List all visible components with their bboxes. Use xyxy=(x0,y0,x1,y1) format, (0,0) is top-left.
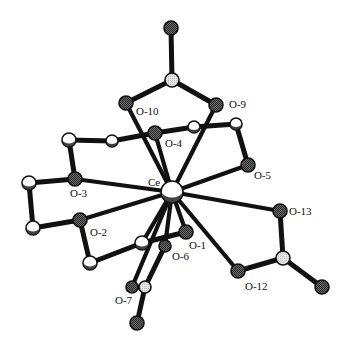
atom-o-2 xyxy=(73,213,87,227)
label-o-1: O-1 xyxy=(189,239,206,251)
atoms xyxy=(22,21,329,330)
atom-c7 xyxy=(83,256,97,270)
atom-o-5 xyxy=(241,158,255,172)
atom-o-4 xyxy=(148,126,162,140)
atom-c3 xyxy=(230,118,242,130)
atom-c1 xyxy=(106,135,118,147)
atom-n3 xyxy=(139,281,151,293)
label-o-3: O-3 xyxy=(70,187,88,199)
atom-o-12 xyxy=(231,264,245,278)
bond-c7-c8 xyxy=(90,243,142,263)
atom-c6 xyxy=(26,221,40,235)
atom-m1 xyxy=(164,21,178,35)
label-o-7: O-7 xyxy=(115,294,133,306)
atom-o-7 xyxy=(126,281,138,293)
atom-o-13 xyxy=(273,204,287,218)
atom-m3 xyxy=(130,316,144,330)
bond-m1-n1 xyxy=(171,28,172,80)
label-o-5: O-5 xyxy=(254,169,272,181)
label-ce: Ce xyxy=(148,176,160,188)
label-o-9: O-9 xyxy=(229,98,247,110)
atom-o-3 xyxy=(68,172,82,186)
label-o-12: O-12 xyxy=(245,280,268,292)
atom-n1 xyxy=(165,73,179,87)
atom-m2 xyxy=(315,280,329,294)
label-o-2: O-2 xyxy=(90,226,107,238)
molecular-diagram: O-10O-9O-4O-5O-3O-2O-6O-1O-7O-13O-12Ce xyxy=(0,0,348,347)
atom-c2 xyxy=(188,121,200,133)
atom-o-1 xyxy=(179,225,193,239)
atom-n2 xyxy=(276,251,290,265)
atom-c8 xyxy=(135,236,149,250)
atom-c5 xyxy=(22,176,36,190)
ce-complex-structure: O-10O-9O-4O-5O-3O-2O-6O-1O-7O-13O-12Ce xyxy=(0,0,348,347)
atom-o-9 xyxy=(209,98,223,112)
atom-c4 xyxy=(62,133,76,147)
label-o-13: O-13 xyxy=(289,205,312,217)
label-o-6: O-6 xyxy=(172,250,190,262)
atom-o-6 xyxy=(159,240,171,252)
label-o-10: O-10 xyxy=(136,105,159,117)
atom-o-10 xyxy=(119,96,133,110)
label-o-4: O-4 xyxy=(165,137,183,149)
atom-ce xyxy=(161,181,183,203)
